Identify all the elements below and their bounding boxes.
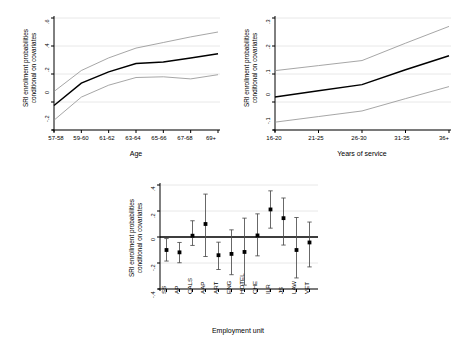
service-ytick-label-0: .3 (265, 19, 271, 24)
service-ytick-label-1: .2 (265, 44, 271, 49)
unit-xtick-label-11: VET (303, 282, 310, 294)
service-xtick-label-4: 36+ (427, 135, 461, 141)
unit-xtick-label-6: HOTEL (238, 273, 245, 294)
age-ytick-label-3: 0 (44, 91, 50, 94)
service-xtick-label-0: 16-20 (257, 135, 291, 141)
unit-ytick-label-1: .2 (150, 213, 156, 218)
unit-y-title-line2: conditional on covariates (136, 203, 143, 273)
service-panel-plot (273, 16, 451, 132)
unit-y-title-line1: SRI enrollment probabilities (128, 199, 135, 277)
unit-xtick-label-4: ART (212, 282, 219, 294)
unit-ytick-label-0: .4 (150, 186, 156, 191)
unit-xtick-label-2: CALS (186, 278, 193, 294)
unit-xtick-label-0: SS (160, 286, 167, 294)
service-panel: SRI enrollment probabilities conditional… (231, 0, 462, 175)
age-ytick-label-0: .6 (44, 19, 50, 24)
age-panel-x-axis-title: Age (52, 150, 220, 157)
age-panel-plot (52, 16, 220, 132)
service-panel-x-axis-title: Years of service (273, 150, 451, 157)
service-ytick-label-4: -.1 (265, 117, 271, 124)
age-xtick-label-6: 69+ (193, 135, 229, 141)
unit-panel: SRI enrollment probabilities conditional… (110, 175, 360, 341)
service-xtick-label-1: 21-25 (299, 135, 333, 141)
service-y-title-line1: SRI enrollment probabilities (243, 29, 250, 107)
unit-xtick-label-1: AP (173, 286, 180, 294)
age-ytick-label-4: -.2 (44, 115, 50, 122)
unit-xtick-label-7: CHE (251, 281, 258, 294)
age-ytick-label-1: .4 (44, 43, 50, 48)
unit-xtick-label-5: ENG (225, 281, 232, 294)
unit-panel-x-axis-title: Employment unit (158, 327, 318, 334)
service-ytick-label-2: .1 (265, 69, 271, 74)
unit-ytick-label-4: -.4 (150, 291, 156, 298)
unit-xtick-label-8: ILR (264, 284, 271, 294)
service-y-title-line2: conditional on covariates (251, 33, 258, 103)
unit-xtick-label-9: JS (277, 287, 284, 294)
age-y-title-line2: conditional on covariates (30, 33, 37, 103)
unit-xtick-label-10: LAW (290, 281, 297, 294)
unit-ytick-label-3: -.2 (150, 264, 156, 271)
service-xtick-label-2: 26-30 (342, 135, 376, 141)
age-y-title-line1: SRI enrollment probabilities (22, 29, 29, 107)
unit-ytick-label-2: 0 (150, 238, 156, 241)
unit-panel-y-axis-title: SRI enrollment probabilities conditional… (128, 183, 144, 293)
age-panel-y-axis-title: SRI enrollment probabilities conditional… (22, 8, 38, 128)
age-panel: SRI enrollment probabilities conditional… (0, 0, 231, 175)
service-panel-y-axis-title: SRI enrollment probabilities conditional… (243, 8, 259, 128)
unit-xtick-label-3: AAP (199, 282, 206, 294)
age-ytick-label-2: .2 (44, 67, 50, 72)
service-xtick-label-3: 31-35 (385, 135, 419, 141)
service-ytick-label-3: 0 (265, 93, 271, 96)
